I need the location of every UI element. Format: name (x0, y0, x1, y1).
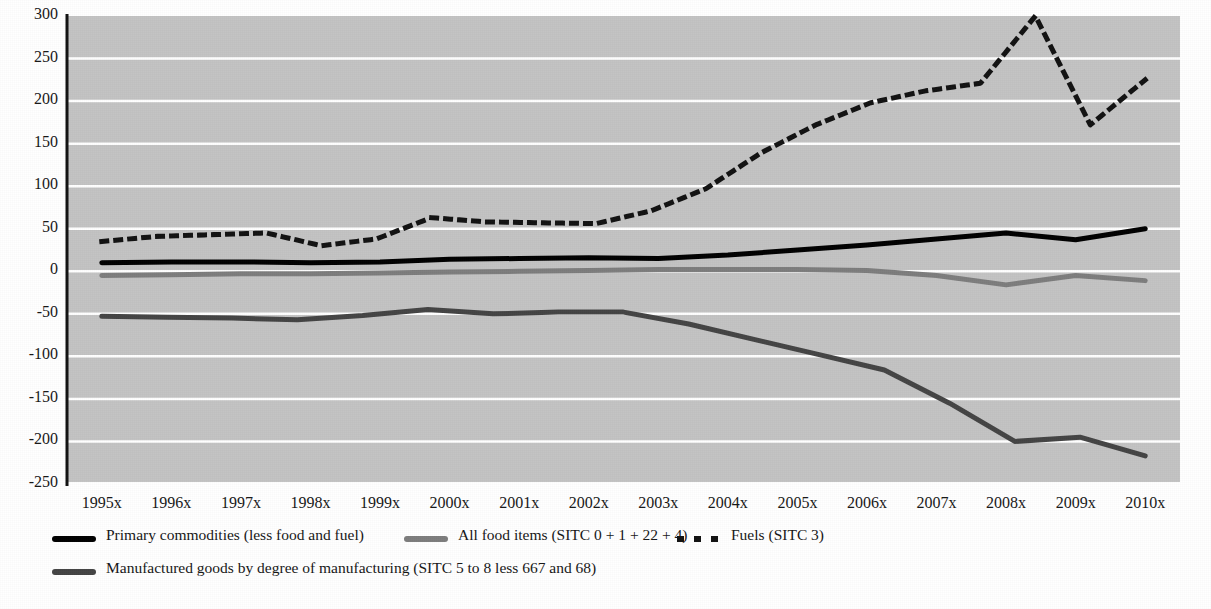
chart-figure: 300250200150100500-50-100-150-200-250 19… (0, 0, 1211, 609)
legend-swatch (677, 536, 721, 542)
legend-label: Fuels (SITC 3) (731, 526, 824, 544)
x-tick-label: 2000x (410, 494, 490, 512)
y-tick-label: -150 (29, 388, 58, 406)
y-tick-label: 300 (34, 5, 58, 23)
legend-label: Manufactured goods by degree of manufact… (106, 559, 596, 577)
x-tick-label: 1997x (201, 494, 281, 512)
x-tick-label: 2010x (1105, 494, 1185, 512)
x-tick-label: 2003x (618, 494, 698, 512)
legend-label: Primary commodities (less food and fuel) (106, 526, 364, 544)
y-tick-label: 250 (34, 48, 58, 66)
y-tick-label: -50 (37, 303, 58, 321)
y-tick-label: -100 (29, 345, 58, 363)
legend-swatch (52, 536, 96, 542)
x-tick-label: 1995x (62, 494, 142, 512)
x-tick-label: 2001x (479, 494, 559, 512)
x-tick-label: 1999x (340, 494, 420, 512)
x-tick-label: 1996x (131, 494, 211, 512)
y-tick-label: 200 (34, 90, 58, 108)
x-tick-label: 1998x (270, 494, 350, 512)
x-tick-label: 2009x (1036, 494, 1116, 512)
plot-background (67, 16, 1180, 484)
x-tick-label: 2002x (549, 494, 629, 512)
x-tick-label: 2008x (966, 494, 1046, 512)
chart-plot-area (0, 0, 1211, 609)
y-tick-label: 150 (34, 133, 58, 151)
legend-swatch (52, 569, 96, 575)
y-tick-label: 0 (50, 260, 58, 278)
legend-swatch (404, 536, 448, 542)
x-tick-label: 2004x (688, 494, 768, 512)
x-tick-label: 2005x (757, 494, 837, 512)
y-tick-label: -200 (29, 430, 58, 448)
legend-label: All food items (SITC 0 + 1 + 22 + 4) (458, 526, 687, 544)
y-tick-label: 100 (34, 175, 58, 193)
y-tick-label: -250 (29, 473, 58, 491)
x-tick-label: 2007x (897, 494, 977, 512)
x-tick-label: 2006x (827, 494, 907, 512)
y-tick-label: 50 (42, 218, 58, 236)
